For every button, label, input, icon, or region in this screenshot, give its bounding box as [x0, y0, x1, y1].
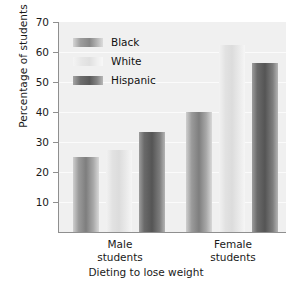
- y-tick-70: [53, 22, 58, 23]
- bar-male-white: [106, 150, 132, 233]
- legend-label-hispanic: Hispanic: [111, 75, 156, 86]
- bar-female-hispanic: [252, 63, 278, 233]
- bar-male-hispanic: [139, 132, 165, 233]
- y-tick-10: [53, 202, 58, 203]
- y-tick-20: [53, 172, 58, 173]
- x-category-male-line2: students: [75, 251, 165, 264]
- legend-label-black: Black: [111, 37, 139, 48]
- bar-male-black: [73, 157, 99, 232]
- x-category-male-line1: Male: [75, 238, 165, 251]
- plot-area: Black White Hispanic: [59, 22, 286, 232]
- legend-swatch-white-icon: [73, 57, 103, 66]
- x-axis-title: Dieting to lose weight: [0, 266, 292, 278]
- y-tick-label-30: 30: [19, 137, 49, 148]
- y-tick-50: [53, 82, 58, 83]
- y-tick-40: [53, 112, 58, 113]
- legend-swatch-black-icon: [73, 38, 103, 47]
- legend-item-hispanic: Hispanic: [73, 72, 156, 88]
- y-tick-label-10: 10: [19, 197, 49, 208]
- x-category-female: Female students: [188, 238, 278, 264]
- x-category-female-line2: students: [188, 251, 278, 264]
- y-tick-label-50: 50: [19, 77, 49, 88]
- legend: Black White Hispanic: [73, 34, 156, 91]
- bar-chart: Percentage of students Black White: [0, 0, 292, 282]
- x-category-male: Male students: [75, 238, 165, 264]
- y-tick-60: [53, 52, 58, 53]
- y-tick-label-70: 70: [19, 17, 49, 28]
- legend-label-white: White: [111, 56, 142, 67]
- bar-female-white: [219, 45, 245, 233]
- y-tick-label-40: 40: [19, 107, 49, 118]
- x-category-female-line1: Female: [188, 238, 278, 251]
- y-tick-30: [53, 142, 58, 143]
- x-axis-line: [58, 232, 286, 233]
- legend-swatch-hispanic-icon: [73, 76, 103, 85]
- legend-item-white: White: [73, 53, 156, 69]
- y-tick-label-20: 20: [19, 167, 49, 178]
- y-tick-label-60: 60: [19, 47, 49, 58]
- legend-item-black: Black: [73, 34, 156, 50]
- y-axis-line: [58, 22, 59, 233]
- bar-female-black: [186, 112, 212, 232]
